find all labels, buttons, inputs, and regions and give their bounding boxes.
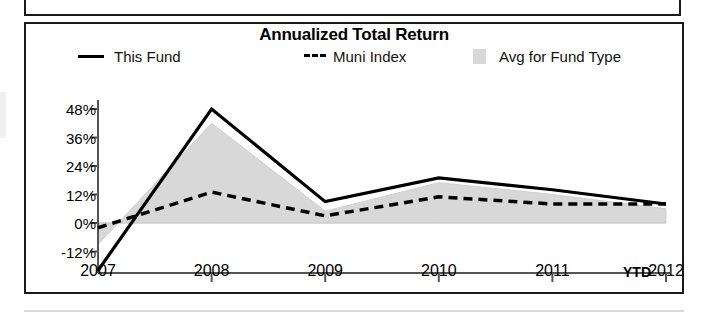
plot-area: 48%36%24%12%0%-12% 200720082009201020112… xyxy=(26,24,682,292)
annualized-total-return-panel: Annualized Total Return This Fund Muni I… xyxy=(24,22,684,294)
x-axis-tick-label: 2011 xyxy=(535,262,569,280)
x-axis-labels: 200720082009201020112012 xyxy=(26,24,682,292)
x-axis-ytd-suffix: YTD xyxy=(623,264,651,280)
x-axis-tick-label: 2007 xyxy=(80,262,116,280)
x-axis-tick-label: 2008 xyxy=(194,262,230,280)
x-axis-tick-label: 2009 xyxy=(307,262,343,280)
x-axis-tick-label: 2012 xyxy=(648,262,684,280)
page-bottom-divider xyxy=(24,310,684,312)
screenshot-root: Annualized Total Return This Fund Muni I… xyxy=(0,0,709,323)
adjacent-panel-above xyxy=(24,0,681,16)
page-edge-marker xyxy=(0,92,6,138)
x-axis-tick-label: 2010 xyxy=(421,262,457,280)
